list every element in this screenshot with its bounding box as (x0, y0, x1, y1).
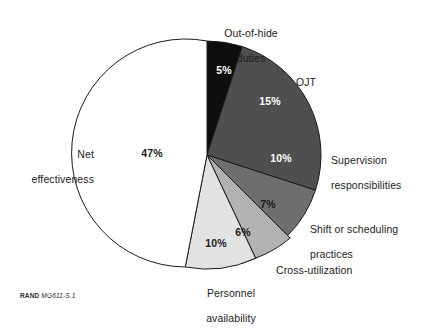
slice-label-ojt: OJT (296, 63, 366, 88)
slice-label-out-of-hide-duties-line1: Out-of-hide (224, 27, 278, 39)
slice-value-out-of-hide-duties: 5% (216, 64, 231, 76)
slice-label-shift-or-scheduling-practices-line1: Shift or scheduling (310, 223, 398, 235)
slice-label-supervision-responsibilities-line2: responsibilities (331, 179, 401, 191)
slice-label-personnel-availability-line1: Personnel (207, 287, 255, 299)
slice-label-personnel-availability-line2: availability (206, 312, 256, 324)
slice-label-out-of-hide-duties: Out-of-hide duties (196, 14, 306, 64)
figure-source-id: MG611-S.1 (41, 292, 75, 299)
slice-label-personnel-availability: Personnel availability (179, 274, 283, 324)
slice-value-supervision-responsibilities: 10% (270, 152, 291, 164)
slice-label-net-effectiveness-line2: effectiveness (32, 173, 94, 185)
slice-label-supervision-responsibilities-line1: Supervision (331, 154, 387, 166)
figure-source-brand: RAND (20, 292, 39, 299)
slice-value-shift-or-scheduling-practices: 7% (260, 198, 275, 210)
slice-label-supervision-responsibilities: Supervision responsibilities (331, 141, 421, 191)
slice-value-ojt: 15% (259, 95, 280, 107)
pie-chart-figure: 5% 15% 10% 7% 6% 10% 47% Out-of-hide dut… (0, 0, 422, 328)
slice-label-net-effectiveness-line1: Net (77, 148, 94, 160)
slice-label-net-effectiveness: Net effectiveness (12, 135, 94, 185)
slice-label-cross-utilization-line1: Cross-utilization (276, 264, 352, 276)
slice-label-ojt-line1: OJT (296, 76, 316, 88)
slice-value-personnel-availability: 10% (205, 237, 226, 249)
slice-value-net-effectiveness: 47% (141, 147, 162, 159)
slice-label-out-of-hide-duties-line2: duties (237, 52, 266, 64)
figure-source-caption: RAND MG611-S.1 (20, 292, 75, 299)
slice-label-cross-utilization: Cross-utilization (276, 251, 371, 276)
slice-value-cross-utilization: 6% (235, 226, 250, 238)
